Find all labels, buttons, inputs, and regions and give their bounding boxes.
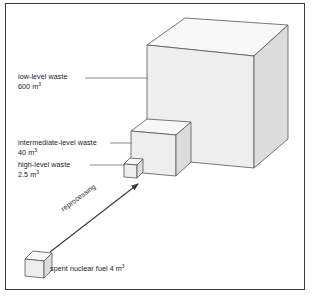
- label-low-level-waste-exponent: 3: [38, 80, 41, 86]
- small-cube-front-face: [124, 164, 137, 178]
- label-intermediate-level-waste: intermediate-level waste 40 m3: [18, 138, 97, 157]
- label-low-level-waste-value: 600 m3: [18, 82, 67, 92]
- label-spent-nuclear-fuel: spent nuclear fuel 4 m3: [50, 264, 125, 274]
- label-intermediate-level-waste-value: 40 m3: [18, 148, 97, 158]
- label-high-level-waste-value: 2.5 m3: [18, 170, 70, 180]
- label-intermediate-level-waste-exponent: 3: [34, 146, 37, 152]
- label-high-level-waste: high-level waste 2.5 m3: [18, 160, 70, 179]
- label-low-level-waste-name: low-level waste: [18, 72, 67, 82]
- spent-nuclear-fuel-cube: [25, 251, 52, 278]
- label-high-level-waste-name: high-level waste: [18, 160, 70, 170]
- label-high-level-waste-exponent: 3: [36, 168, 39, 174]
- label-intermediate-level-waste-name: intermediate-level waste: [18, 138, 97, 148]
- high-level-waste-cube: [124, 158, 143, 178]
- label-spent-nuclear-fuel-text: spent nuclear fuel 4 m: [50, 264, 122, 273]
- figure-root: low-level waste 600 m3 intermediate-leve…: [0, 0, 323, 305]
- reprocessing-arrow: [50, 184, 138, 252]
- label-spent-nuclear-fuel-exponent: 3: [122, 263, 125, 269]
- label-low-level-waste: low-level waste 600 m3: [18, 72, 67, 91]
- spent-cube-front-face: [25, 259, 44, 278]
